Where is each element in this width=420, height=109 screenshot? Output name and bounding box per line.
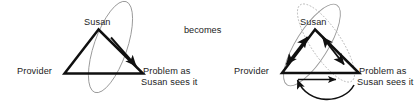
triangle-before xyxy=(65,30,144,74)
node-label-provider-after: Provider xyxy=(234,66,269,77)
node-label-susan-before: Susan xyxy=(84,17,111,28)
node-label-provider-before: Provider xyxy=(17,66,52,77)
ellipse-susan-problem-before xyxy=(79,0,141,98)
arrow-susan-to-problem-before xyxy=(111,38,136,67)
node-label-susan-after: Susan xyxy=(300,17,327,28)
diagram-vector-layer xyxy=(0,0,420,109)
arrow-provider-susan-after xyxy=(287,37,308,65)
node-label-problem-before-line1: Problem as xyxy=(143,66,190,78)
node-label-problem-after-line2: Susan sees it xyxy=(357,77,413,89)
connector-label-becomes: becomes xyxy=(184,25,221,35)
triangle-after xyxy=(282,30,359,74)
ellipse-susan-problem-after xyxy=(288,0,364,90)
node-label-problem-after-line1: Problem as xyxy=(359,66,406,78)
panel-after xyxy=(274,0,365,99)
panel-before xyxy=(65,0,144,98)
arrow-susan-problem-after xyxy=(323,37,345,65)
figure-canvas: Susan Provider Problem as Susan sees it … xyxy=(0,0,420,109)
node-label-problem-before-line2: Susan sees it xyxy=(141,77,197,89)
arrow-problem-provider-curved-after xyxy=(298,80,355,99)
